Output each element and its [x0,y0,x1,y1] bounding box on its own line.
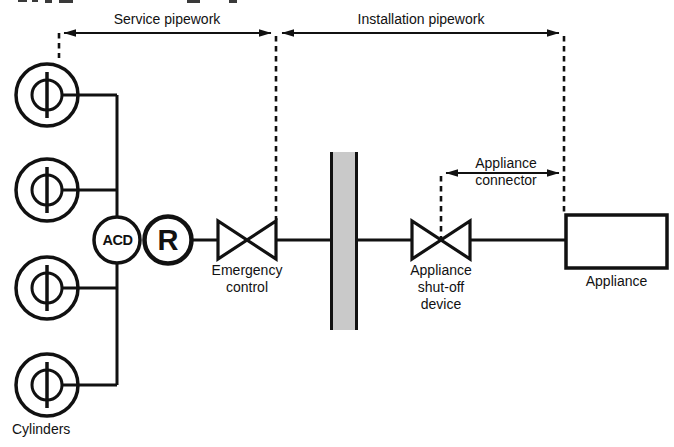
diagram-linework [0,0,674,447]
emergency-control-valve [218,221,276,259]
pipework-diagram: Service pipework Installation pipework A… [0,0,674,447]
cylinder-symbol-4 [16,354,117,416]
wall-fill [330,152,358,330]
installation-pipework-label: Installation pipework [282,11,560,28]
regulator-label: R [145,224,191,256]
wall [330,152,358,330]
cylinders-label: Cylinders [12,421,112,438]
emergency-control-label: Emergency control [197,262,297,296]
cylinder-symbol-3 [16,257,117,319]
cylinder-symbol-1 [16,64,117,126]
appliance-label: Appliance [566,273,667,290]
appliance-connector-label: Appliance connector [447,155,565,189]
acd-label: ACD [95,232,140,248]
appliance-box [566,215,667,268]
appliance-shutoff-label: Appliance shut-off device [391,262,491,313]
cylinder-symbol-2 [16,159,117,221]
service-pipework-label: Service pipework [62,11,272,28]
